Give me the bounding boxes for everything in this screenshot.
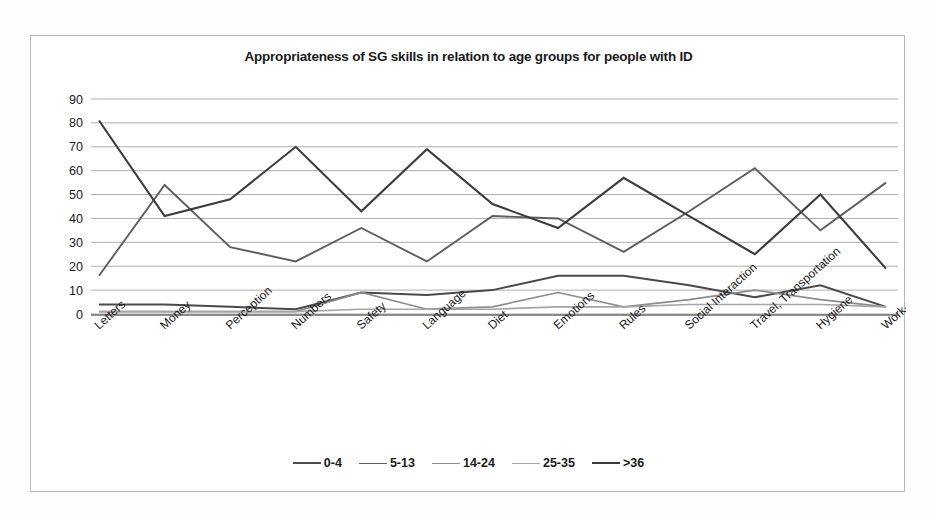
y-axis-tick-label: 70 (69, 140, 83, 154)
x-axis-tick-label: Emotions (551, 288, 598, 332)
x-axis-tick-label: Work-related (879, 276, 906, 332)
y-axis-tick-label: 50 (69, 188, 83, 202)
y-axis-tick-label: 80 (69, 116, 83, 130)
x-axis-tick-label: Hygiene (813, 292, 855, 332)
y-axis-tick-labels: 0102030405060708090 (69, 93, 83, 322)
x-axis-tick-label: Diet (485, 307, 511, 332)
legend-item-label: >36 (623, 456, 644, 470)
line-chart-plot: 0102030405060708090 LettersMoneyPercepti… (31, 36, 906, 456)
legend-item[interactable]: 5-13 (359, 456, 415, 470)
y-axis-tick-label: 40 (69, 212, 83, 226)
legend-item-label: 5-13 (390, 456, 415, 470)
y-axis-tick-label: 90 (69, 93, 83, 107)
chart-page: Appropriateness of SG skills in relation… (0, 0, 936, 520)
chart-container: Appropriateness of SG skills in relation… (30, 35, 905, 492)
legend-item[interactable]: 14-24 (432, 456, 495, 470)
y-axis-tick-label: 0 (76, 308, 83, 322)
legend-item-label: 14-24 (463, 456, 495, 470)
legend-item[interactable]: 25-35 (512, 456, 575, 470)
y-axis-tick-label: 60 (69, 164, 83, 178)
legend-item-label: 0-4 (324, 456, 342, 470)
legend-line-swatch (592, 462, 620, 464)
legend-line-swatch (512, 463, 540, 464)
legend-item-label: 25-35 (543, 456, 575, 470)
legend-line-swatch (359, 463, 387, 464)
legend-item[interactable]: 0-4 (293, 456, 342, 470)
gridlines (91, 99, 898, 314)
y-axis-tick-label: 30 (69, 236, 83, 250)
y-axis-tick-label: 10 (69, 284, 83, 298)
series-line-5-13 (99, 168, 886, 276)
data-series-lines (99, 121, 886, 312)
legend-line-swatch (432, 463, 460, 464)
legend-item[interactable]: >36 (592, 456, 644, 470)
legend-line-swatch (293, 462, 321, 464)
y-axis-tick-label: 20 (69, 260, 83, 274)
chart-legend: 0-45-1314-2425-35>36 (31, 456, 906, 470)
